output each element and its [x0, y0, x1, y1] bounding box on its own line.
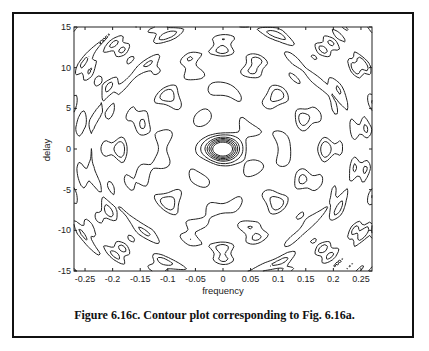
- plot-area: [74, 27, 372, 271]
- y-tick-label: 0: [66, 144, 71, 154]
- contour-chart: -0.25-0.2-0.15-0.1-0.0500.050.10.150.20.…: [0, 0, 429, 351]
- x-tick-label: 0.25: [352, 274, 370, 284]
- y-tick-label: -5: [63, 185, 71, 195]
- x-tick-label: -0.15: [130, 274, 151, 284]
- x-tick-label: -0.1: [160, 274, 176, 284]
- y-axis-label: delay: [41, 138, 52, 161]
- y-tick-label: 15: [61, 22, 71, 32]
- x-tick-label: -0.05: [185, 274, 206, 284]
- y-tick-label: 5: [66, 103, 71, 113]
- y-tick-label: -15: [58, 266, 71, 276]
- x-tick-label: 0.2: [327, 274, 340, 284]
- y-tick-label: 10: [61, 63, 71, 73]
- x-tick-label: -0.25: [75, 274, 96, 284]
- y-tick-label: -10: [58, 225, 71, 235]
- figure-caption: Figure 6.16c. Contour plot corresponding…: [0, 308, 429, 323]
- x-axis-label: frequency: [202, 285, 244, 296]
- x-tick-label: -0.2: [105, 274, 121, 284]
- x-tick-label: 0.1: [272, 274, 285, 284]
- x-tick-label: 0: [220, 274, 225, 284]
- x-tick-label: 0.05: [242, 274, 260, 284]
- x-tick-label: 0.15: [297, 274, 315, 284]
